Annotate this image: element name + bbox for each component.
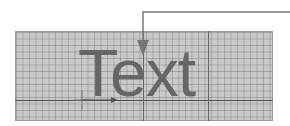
callout-arrow-icon [137, 12, 290, 56]
baseline-arrow-icon [82, 97, 118, 103]
diagram-canvas: Text [0, 0, 290, 126]
annotation-layer [0, 0, 290, 126]
